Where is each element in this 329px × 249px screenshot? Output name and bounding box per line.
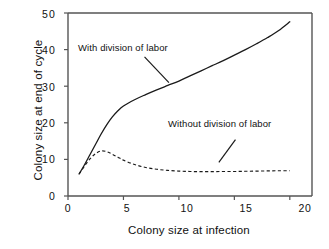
x-tick-label-10: 10 [172, 203, 202, 213]
x-tick-label-20: 20 [290, 203, 320, 213]
y-tick-label-50: 50 [22, 9, 56, 19]
annotation-leader-line-with [145, 57, 169, 83]
y-tick-label-10: 10 [22, 154, 56, 164]
x-tick-label-0: 0 [53, 203, 83, 213]
y-tick-label-30: 30 [22, 82, 56, 92]
x-tick-label-5: 5 [112, 203, 142, 213]
annotation-without-division-of-labor: Without division of labor [168, 118, 271, 129]
y-tick-label-40: 40 [22, 45, 56, 55]
annotation-leader-line-without [219, 140, 236, 163]
y-tick-label-0: 0 [22, 191, 56, 201]
y-tick-label-20: 20 [22, 118, 56, 128]
y-axis-title: Colony size at end of cycle [32, 10, 44, 210]
axis-spines [68, 13, 312, 196]
series-line-without-division-of-labor [79, 151, 290, 174]
x-tick-label-15: 15 [231, 203, 261, 213]
annotation-with-division-of-labor: With division of labor [78, 42, 168, 53]
chart-figure: Colony size at end of cycle Colony size … [0, 0, 329, 249]
x-axis-title: Colony size at infection [68, 224, 310, 236]
